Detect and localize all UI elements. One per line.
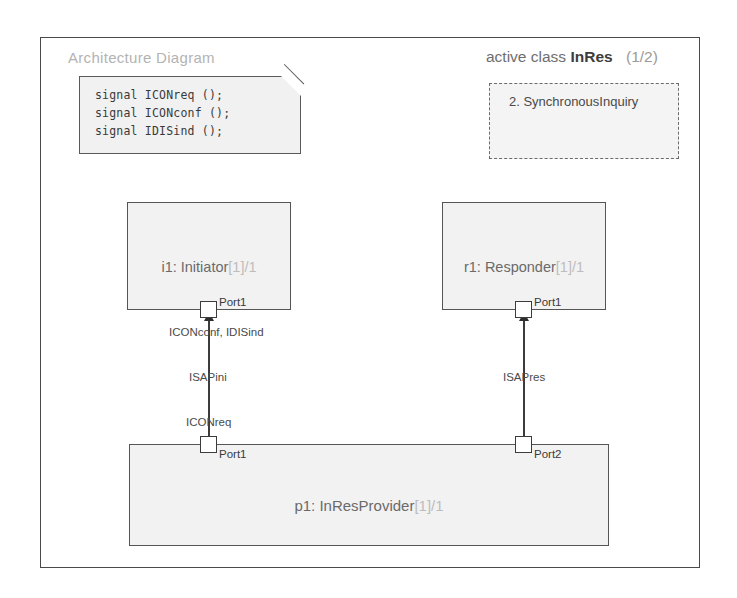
block-responder[interactable]: r1: Responder[1]/1	[442, 202, 606, 310]
connector-isapini-name: ISAPini	[189, 371, 227, 383]
block-initiator-instance: i1: Initiator	[161, 259, 228, 275]
block-provider-label: p1: InResProvider[1]/1	[130, 497, 608, 514]
signal-line: signal ICONreq ();	[95, 86, 230, 104]
port-initiator-port1-label: Port1	[219, 296, 247, 308]
active-class-name: InRes	[570, 48, 612, 65]
page-title: Architecture Diagram	[68, 49, 215, 66]
state-box-synchronous-inquiry: 2. SynchronousInquiry	[489, 83, 679, 159]
block-responder-instance: r1: Responder	[464, 259, 556, 275]
connector-isapini-upper-signals: ICONconf, IDISind	[169, 326, 264, 338]
signal-line: signal IDISind ();	[95, 122, 230, 140]
signal-declaration-note: signal ICONreq (); signal ICONconf (); s…	[79, 76, 301, 154]
port-responder-port1[interactable]	[515, 301, 532, 318]
connector-isapini-lower-signals: ICONreq	[186, 416, 231, 428]
block-provider-instance: p1: InResProvider	[294, 497, 414, 514]
state-box-label: 2. SynchronousInquiry	[509, 94, 638, 109]
active-class-heading: active class InRes (1/2)	[486, 48, 658, 66]
port-provider-port1[interactable]	[200, 436, 217, 453]
port-provider-port2[interactable]	[515, 436, 532, 453]
active-class-index: (1/2)	[626, 48, 658, 65]
block-responder-multiplicity: [1]/1	[556, 259, 584, 275]
port-provider-port1-label: Port1	[219, 448, 247, 460]
connector-isapres-name: ISAPres	[503, 371, 545, 383]
port-initiator-port1[interactable]	[200, 301, 217, 318]
block-initiator[interactable]: i1: Initiator[1]/1	[127, 202, 291, 310]
block-initiator-label: i1: Initiator[1]/1	[128, 259, 290, 275]
architecture-diagram-frame: Architecture Diagram active class InRes …	[40, 37, 700, 568]
note-fold-icon	[284, 63, 305, 84]
block-provider-multiplicity: [1]/1	[414, 497, 443, 514]
signal-line: signal ICONconf ();	[95, 104, 230, 122]
port-responder-port1-label: Port1	[534, 296, 562, 308]
port-provider-port2-label: Port2	[534, 448, 562, 460]
block-responder-label: r1: Responder[1]/1	[443, 259, 605, 275]
active-class-keyword: active class	[486, 48, 566, 65]
note-signal-list: signal ICONreq (); signal ICONconf (); s…	[95, 86, 230, 140]
block-initiator-multiplicity: [1]/1	[228, 259, 256, 275]
